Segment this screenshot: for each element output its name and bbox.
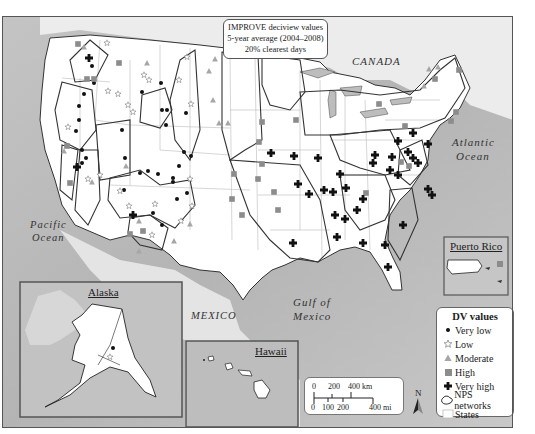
- map-frame: [2, 16, 513, 428]
